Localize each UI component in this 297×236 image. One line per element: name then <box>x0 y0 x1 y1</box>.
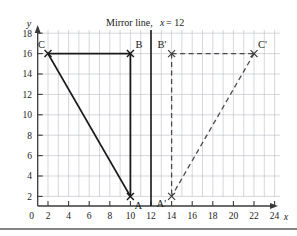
vertex-label-a: A <box>134 200 142 211</box>
x-axis-name: x <box>283 211 289 222</box>
mirror-line-figure: 0 2 4 6 8 10 12 14 16 18 20 22 24 18 16 … <box>0 0 297 236</box>
x-tick-label: 12 <box>146 211 156 221</box>
vertex-label-b-image: B' <box>158 39 167 50</box>
x-tick-label: 24 <box>270 211 280 221</box>
x-tick-label: 10 <box>126 211 136 221</box>
x-tick-label: 22 <box>249 211 259 221</box>
title-equals-text: = 12 <box>166 17 184 28</box>
y-tick-label: 4 <box>27 171 32 181</box>
x-tick-label: 16 <box>187 211 197 221</box>
vertex-label-c-image: C' <box>258 39 267 50</box>
x-tick-label: 0 <box>29 211 34 221</box>
y-tick-label: 10 <box>23 110 33 120</box>
x-tick-label: 18 <box>208 211 218 221</box>
x-tick-label: 20 <box>229 211 239 221</box>
vertex-label-a-image: A' <box>157 198 167 209</box>
y-tick-label: 12 <box>23 90 33 100</box>
vertex-label-b: B <box>135 39 142 50</box>
vertex-label-c: C <box>38 39 45 50</box>
y-axis-name: y <box>26 18 32 29</box>
y-tick-label: 8 <box>27 131 32 141</box>
y-tick-label: 6 <box>27 151 32 161</box>
chart-title: Mirror line, x = 12 <box>106 17 184 28</box>
x-tick-label: 6 <box>87 211 92 221</box>
figure-background <box>0 0 297 236</box>
y-tick-label: 2 <box>27 192 32 202</box>
y-tick-label: 16 <box>23 49 33 59</box>
x-tick-label: 4 <box>66 211 71 221</box>
y-tick-label: 18 <box>23 29 33 39</box>
y-tick-label: 14 <box>23 69 33 79</box>
title-lead-text: Mirror line, <box>106 17 153 28</box>
x-tick-label: 8 <box>107 211 112 221</box>
x-tick-label: 2 <box>46 211 51 221</box>
coordinate-grid-diagram: 0 2 4 6 8 10 12 14 16 18 20 22 24 18 16 … <box>0 0 297 236</box>
x-tick-label: 14 <box>167 211 177 221</box>
title-variable-text: x <box>159 17 165 28</box>
